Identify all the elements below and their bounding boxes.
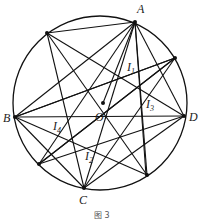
label-O: O (95, 110, 104, 124)
point-dot (82, 186, 86, 190)
chord-D-P3 (39, 116, 184, 164)
label-B: B (3, 111, 11, 125)
figure-caption: 图 3 (94, 211, 110, 220)
label-C: C (79, 193, 88, 207)
chord-P1-C (47, 33, 84, 188)
point-dot (101, 101, 105, 105)
point-dot (45, 31, 49, 35)
chord-P3-P2 (39, 58, 175, 164)
label-I4: I4 (52, 119, 61, 135)
point-dot (37, 162, 41, 166)
point-dot (145, 173, 149, 177)
chord-A-P3 (39, 22, 135, 164)
label-I3: I3 (145, 97, 154, 113)
chord-A-P1 (47, 22, 135, 33)
point-dot (13, 115, 17, 119)
point-dot (133, 20, 137, 24)
point-dot (173, 56, 177, 60)
chord-D-C (84, 116, 184, 188)
chord-A-D (135, 22, 184, 116)
chord-extra (135, 22, 146, 175)
label-D: D (188, 110, 198, 124)
label-I2: I2 (84, 149, 93, 165)
geometry-diagram: ABCDOI1I2I3I4 图 3 (0, 0, 201, 220)
label-I1: I1 (126, 60, 135, 76)
label-A: A (136, 2, 145, 16)
vertex-dots (13, 20, 186, 190)
point-dot (182, 114, 186, 118)
